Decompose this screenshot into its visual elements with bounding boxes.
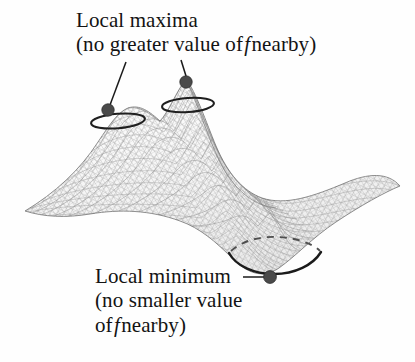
local-minimum-line-3-before: of <box>95 313 113 337</box>
marker-minimum <box>264 271 277 284</box>
leader-left-maximum <box>110 62 126 105</box>
local-maxima-line-2: (no greater value offnearby) <box>76 32 316 56</box>
marker-right-maximum <box>180 76 192 88</box>
marker-left-maximum <box>102 104 114 116</box>
local-minimum-line-3-after: nearby) <box>121 313 186 337</box>
local-maxima-line-2-after: nearby) <box>251 32 316 56</box>
function-symbol-f-minimum: f <box>113 313 121 337</box>
leader-right-maximum <box>181 60 186 76</box>
local-maxima-line-2-before: (no greater value of <box>76 32 243 56</box>
local-minimum-line-2: (no smaller value <box>95 288 242 312</box>
local-minimum-line-1: Local minimum <box>95 264 242 288</box>
local-minimum-annotation: Local minimum (no smaller value offnearb… <box>95 264 242 337</box>
local-maxima-annotation: Local maxima (no greater value offnearby… <box>76 8 316 57</box>
local-minimum-line-3: offnearby) <box>95 313 242 337</box>
local-maxima-line-1: Local maxima <box>76 8 316 32</box>
surface-figure: Local maxima (no greater value offnearby… <box>0 0 415 362</box>
